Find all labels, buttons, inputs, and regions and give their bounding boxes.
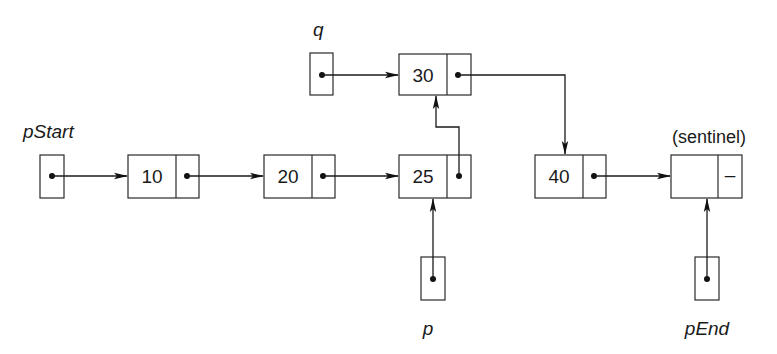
node-25: 25 [399, 96, 471, 198]
linked-list-diagram: pStart 10 20 25 q 30 [0, 0, 777, 354]
node-value: 10 [141, 166, 162, 187]
node-20: 20 [264, 155, 398, 198]
pointer-p: p [421, 199, 445, 339]
node-10: 10 [128, 155, 263, 198]
arrow-30-to-40 [458, 75, 565, 154]
pointer-label-pstart: pStart [22, 121, 74, 142]
pointer-q: q [310, 19, 398, 95]
pointer-label-pend: pEnd [684, 318, 731, 339]
node-value: 30 [412, 65, 433, 86]
node-30: 30 [399, 54, 565, 154]
pointer-pstart: pStart [22, 121, 127, 198]
pointer-label-q: q [313, 19, 324, 40]
node-value: 20 [277, 166, 298, 187]
pointer-pend: pEnd [684, 199, 731, 339]
node-sentinel: (sentinel) – [671, 127, 746, 198]
pointer-label-p: p [422, 318, 434, 339]
sentinel-caption: (sentinel) [672, 127, 746, 147]
node-40: 40 [535, 155, 670, 198]
null-dash: – [725, 164, 736, 185]
node-value: 40 [548, 166, 569, 187]
node-value: 25 [412, 166, 433, 187]
